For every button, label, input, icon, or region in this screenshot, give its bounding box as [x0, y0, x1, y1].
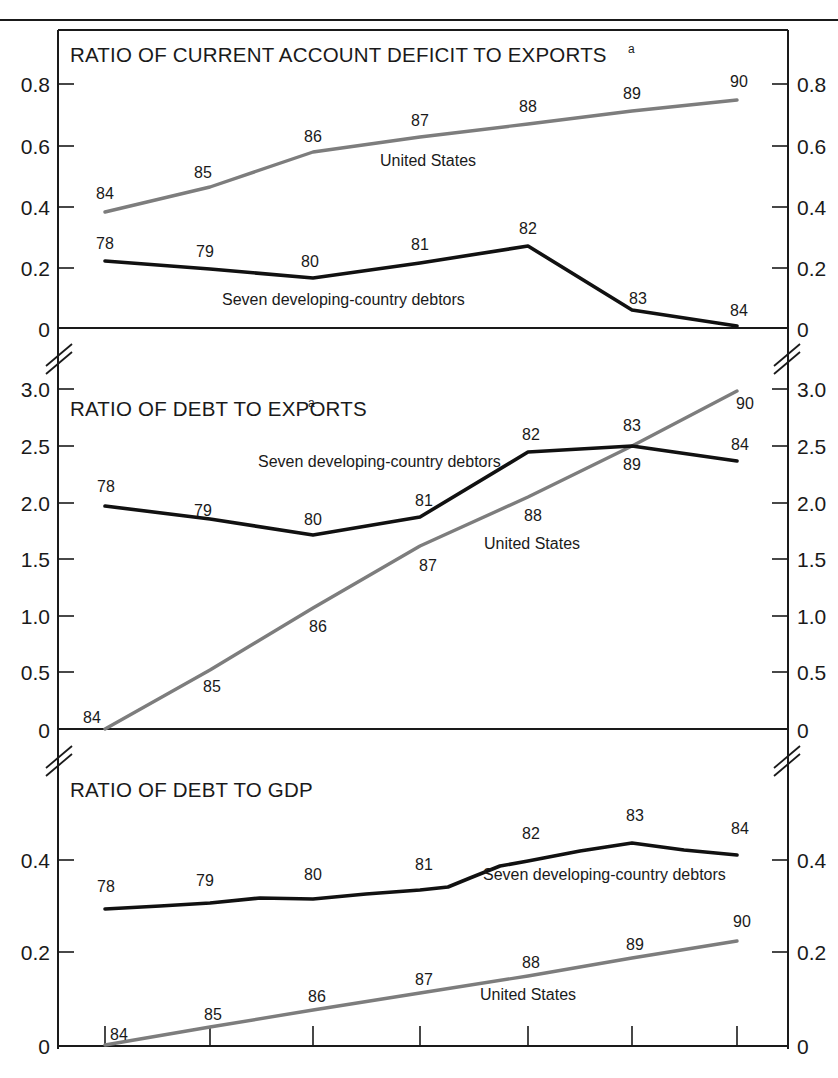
- panel1-us-point-label-84: 84: [96, 185, 114, 202]
- panel2-title-superscript: a: [308, 396, 315, 410]
- panel3-ytick-left-0: 0.4: [21, 849, 51, 872]
- panel1-title-superscript: a: [628, 42, 635, 56]
- panel2-ytick-right-4: 1.0: [797, 605, 826, 628]
- panel1-dev-point-label-82: 82: [519, 220, 537, 237]
- panel3-us-point-label-84: 84: [110, 1026, 128, 1043]
- panel1-ytick-left-4: 0: [38, 318, 50, 341]
- panel2-left-ticks: [58, 389, 74, 672]
- panel1-dev-point-label-80: 80: [301, 253, 319, 270]
- panel1-ytick-right-0: 0.8: [797, 73, 826, 96]
- panel2-ytick-left-4: 1.0: [21, 605, 50, 628]
- panel2-ytick-left-5: 0.5: [21, 661, 50, 684]
- panel1-dev-point-label-78: 78: [96, 235, 114, 252]
- panel2-dev-point-label-84: 84: [731, 436, 749, 453]
- panel3-ytick-left-1: 0.2: [21, 941, 50, 964]
- panel3-ytick-left-2: 0: [38, 1035, 50, 1058]
- panel1-title: RATIO OF CURRENT ACCOUNT DEFICIT TO EXPO…: [70, 43, 607, 66]
- panel2-us-point-label-88: 88: [524, 507, 542, 524]
- panel3-dev-point-label-80: 80: [304, 866, 322, 883]
- panel1-dev-point-label-84: 84: [730, 302, 748, 319]
- panel3-us-point-label-90: 90: [733, 913, 751, 930]
- panel1-us-point-label-86: 86: [304, 128, 322, 145]
- panel2-label-developing-debtors: Seven developing-country debtors: [258, 453, 501, 470]
- panel1-ytick-right-4: 0: [797, 318, 809, 341]
- panel3-right-ticks: [772, 860, 788, 952]
- panel1-us-point-label-87: 87: [411, 112, 429, 129]
- panel3-label-developing-debtors: Seven developing-country debtors: [483, 866, 726, 883]
- panel3-ytick-right-0: 0.4: [797, 849, 827, 872]
- panel2-dev-point-label-82: 82: [522, 426, 540, 443]
- panel2-ytick-left-1: 2.5: [21, 435, 50, 458]
- panel2-ytick-right-3: 1.5: [797, 548, 826, 571]
- panel2-label-united-states: United States: [484, 535, 580, 552]
- panel2-ytick-left-6: 0: [38, 719, 50, 742]
- panel2-dev-point-label-83: 83: [623, 417, 641, 434]
- panel2-us-point-label-90: 90: [736, 395, 754, 412]
- panel1-left-ticks: [58, 84, 74, 268]
- panel2-ytick-right-2: 2.0: [797, 492, 826, 515]
- panel3-us-point-label-86: 86: [308, 988, 326, 1005]
- panel3-us-point-label-89: 89: [626, 936, 644, 953]
- panel1-dev-point-label-81: 81: [411, 236, 429, 253]
- panel2-dev-point-label-81: 81: [415, 492, 433, 509]
- panel1-label-developing-debtors: Seven developing-country debtors: [222, 291, 465, 308]
- panel3-label-united-states: United States: [480, 986, 576, 1003]
- panel2-us-point-label-84: 84: [83, 709, 101, 726]
- panel3-ytick-right-1: 0.2: [797, 941, 826, 964]
- panel3-dev-point-label-84: 84: [731, 820, 749, 837]
- chart-figure: 0.8 0.6 0.4 0.2 0 0.8 0.6 0.4 0.2 0 RATI…: [0, 0, 838, 1078]
- panel-debt-to-gdp: 0.4 0.2 0 0.4 0.2 0 RATIO OF DEBT TO GDP…: [21, 733, 827, 1058]
- panel2-us-point-label-87: 87: [419, 557, 437, 574]
- panel1-ytick-right-1: 0.6: [797, 135, 826, 158]
- panel1-ytick-left-2: 0.4: [21, 196, 51, 219]
- panel3-dev-point-label-79: 79: [196, 872, 214, 889]
- panel1-ytick-left-3: 0.2: [21, 257, 50, 280]
- panel2-right-ticks: [772, 389, 788, 672]
- panel2-title: RATIO OF DEBT TO EXPORTS: [70, 397, 367, 420]
- panel1-us-point-label-85: 85: [194, 164, 212, 181]
- panel1-us-point-label-88: 88: [519, 98, 537, 115]
- panel3-left-ticks: [58, 860, 74, 952]
- panel1-label-united-states: United States: [380, 152, 476, 169]
- panel3-dev-point-label-83: 83: [626, 807, 644, 824]
- panel3-series-united-states: [105, 941, 737, 1045]
- panel2-ytick-right-6: 0: [797, 719, 809, 742]
- panel3-dev-point-label-78: 78: [97, 878, 115, 895]
- panel2-us-point-label-86: 86: [309, 618, 327, 635]
- panel-current-account-deficit-to-exports: 0.8 0.6 0.4 0.2 0 0.8 0.6 0.4 0.2 0 RATI…: [21, 30, 827, 341]
- panel1-ytick-right-2: 0.4: [797, 196, 827, 219]
- panel1-ytick-right-3: 0.2: [797, 257, 826, 280]
- panel2-ytick-left-2: 2.0: [21, 492, 50, 515]
- panel3-title: RATIO OF DEBT TO GDP: [70, 778, 313, 801]
- panel2-dev-point-label-80: 80: [304, 511, 322, 528]
- panel2-ytick-right-5: 0.5: [797, 661, 826, 684]
- panel1-us-point-label-89: 89: [623, 85, 641, 102]
- panel2-ytick-right-0: 3.0: [797, 378, 826, 401]
- panel1-us-point-label-90: 90: [730, 73, 748, 90]
- panel2-dev-point-label-79: 79: [194, 502, 212, 519]
- panel3-dev-point-label-82: 82: [522, 825, 540, 842]
- panel2-us-point-label-85: 85: [203, 678, 221, 695]
- panel3-ytick-right-2: 0: [797, 1035, 809, 1058]
- panel1-ytick-left-1: 0.6: [21, 135, 50, 158]
- panel3-us-point-label-88: 88: [522, 954, 540, 971]
- panel3-dev-point-label-81: 81: [415, 856, 433, 873]
- panel-debt-to-exports: 3.0 2.5 2.0 1.5 1.0 0.5 0 3.0 2.5 2.0 1.…: [21, 332, 826, 742]
- panel1-dev-point-label-83: 83: [629, 290, 647, 307]
- panel2-ytick-left-0: 3.0: [21, 378, 50, 401]
- panel3-us-point-label-87: 87: [415, 971, 433, 988]
- panel2-dev-point-label-78: 78: [97, 478, 115, 495]
- panel2-ytick-right-1: 2.5: [797, 435, 826, 458]
- panel2-ytick-left-3: 1.5: [21, 548, 50, 571]
- panel1-right-ticks: [772, 84, 788, 268]
- panel1-dev-point-label-79: 79: [196, 243, 214, 260]
- panel3-us-point-label-85: 85: [204, 1006, 222, 1023]
- panel1-ytick-left-0: 0.8: [21, 73, 50, 96]
- three-panel-line-chart: 0.8 0.6 0.4 0.2 0 0.8 0.6 0.4 0.2 0 RATI…: [0, 0, 838, 1078]
- panel2-us-point-label-89: 89: [623, 456, 641, 473]
